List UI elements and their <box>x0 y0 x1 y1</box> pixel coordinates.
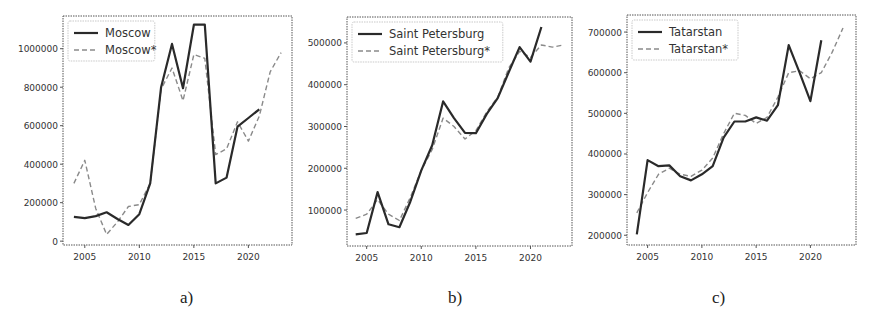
legend-label: Tatarstan <box>668 25 722 39</box>
chart-panel-tatarstan: 2000003000004000005000006000007000002005… <box>0 0 871 270</box>
tatarstan-line-chart: 2000003000004000005000006000007000002005… <box>0 0 871 270</box>
caption-c: c) <box>712 288 725 308</box>
x-tick-label: 2015 <box>745 252 768 262</box>
x-tick-label: 2010 <box>690 252 713 262</box>
y-tick-label: 600000 <box>588 68 623 78</box>
x-tick-label: 2020 <box>799 252 822 262</box>
x-tick-label: 2005 <box>636 252 659 262</box>
y-tick-label: 400000 <box>588 149 623 159</box>
caption-b: b) <box>448 288 462 308</box>
actual-series-line <box>637 40 822 234</box>
y-tick-label: 200000 <box>588 231 623 241</box>
y-tick-label: 700000 <box>588 28 623 38</box>
y-tick-label: 500000 <box>588 109 623 119</box>
legend-label: Tatarstan* <box>668 42 728 56</box>
y-tick-label: 300000 <box>588 190 623 200</box>
caption-a: a) <box>180 288 193 308</box>
